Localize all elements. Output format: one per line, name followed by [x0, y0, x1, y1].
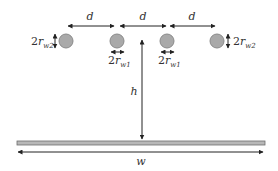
wire-plate-diagram: d d d 2rw2 2rw2 2rw1 2rw1 h w [0, 0, 278, 171]
d-label-2: d [139, 10, 146, 23]
spacing-arrows: d d d [68, 10, 215, 26]
rw1-left-label: 2rw1 [108, 54, 131, 69]
w-label: w [136, 155, 146, 168]
wire-inner-right [160, 34, 174, 48]
d-label-1: d [86, 10, 93, 23]
d-label-3: d [188, 10, 195, 23]
rw1-right-label: 2rw1 [158, 54, 181, 69]
wire-inner-left [110, 34, 124, 48]
ground-plate [17, 141, 265, 145]
rw2-left-label: 2rw2 [31, 35, 54, 50]
wire-outer-right [210, 34, 224, 48]
h-label: h [130, 85, 137, 98]
rw2-right-label: 2rw2 [233, 35, 256, 50]
wire-outer-left [59, 34, 73, 48]
